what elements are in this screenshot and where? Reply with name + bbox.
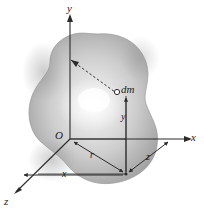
base-vertex-point — [125, 173, 128, 176]
dimension-label-y: y — [121, 112, 125, 122]
y-axis-label: y — [67, 3, 72, 14]
figure-container: y x z O dm r x y z — [0, 0, 204, 213]
figure-diagram — [0, 0, 204, 213]
x-axis-label: x — [191, 132, 196, 143]
origin-label: O — [55, 130, 63, 141]
dimension-label-x: x — [62, 169, 66, 179]
z-axis-label: z — [4, 196, 8, 207]
dimension-label-r: r — [90, 150, 94, 160]
mass-element-label: dm — [121, 84, 134, 95]
y-axis-arrowhead — [67, 14, 73, 22]
rigid-body-blob — [22, 33, 160, 184]
dimension-label-z: z — [146, 152, 150, 162]
dm-point-marker — [114, 89, 119, 94]
